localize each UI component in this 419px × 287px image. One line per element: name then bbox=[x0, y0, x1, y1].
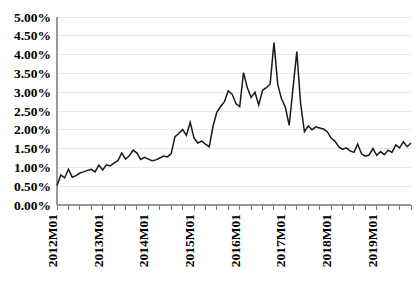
y-tick-label: 3.00% bbox=[14, 85, 51, 100]
y-axis-tick-labels: 0.00%0.50%1.00%1.50%2.00%2.50%3.00%3.50%… bbox=[14, 10, 51, 213]
chart-container: 0.00%0.50%1.00%1.50%2.00%2.50%3.00%3.50%… bbox=[0, 0, 419, 287]
y-tick-label: 2.00% bbox=[14, 122, 51, 137]
y-tick-label: 5.00% bbox=[14, 10, 51, 25]
x-tick-label: 2014M01 bbox=[136, 214, 151, 267]
y-tick-label: 1.50% bbox=[14, 141, 51, 156]
y-tick-label: 0.50% bbox=[14, 179, 51, 194]
y-tick-label: 4.50% bbox=[14, 28, 51, 43]
line-chart: 0.00%0.50%1.00%1.50%2.00%2.50%3.00%3.50%… bbox=[0, 0, 419, 287]
x-axis bbox=[57, 205, 411, 210]
series-line-rate bbox=[57, 43, 411, 186]
x-tick-label: 2016M01 bbox=[228, 214, 243, 267]
x-tick-label: 2017M01 bbox=[273, 214, 288, 267]
x-tick-label: 2019M01 bbox=[365, 214, 380, 267]
y-tick-label: 4.00% bbox=[14, 47, 51, 62]
x-tick-label: 2015M01 bbox=[182, 214, 197, 267]
gridlines bbox=[57, 17, 411, 205]
data-series bbox=[57, 43, 411, 186]
y-tick-label: 3.50% bbox=[14, 66, 51, 81]
y-tick-label: 1.00% bbox=[14, 160, 51, 175]
x-tick-label: 2013M01 bbox=[91, 214, 106, 267]
x-axis-tick-labels: 2012M012013M012014M012015M012016M012017M… bbox=[45, 214, 380, 267]
y-tick-label: 2.50% bbox=[14, 104, 51, 119]
x-tick-label: 2018M01 bbox=[319, 214, 334, 267]
x-tick-label: 2012M01 bbox=[45, 214, 60, 267]
y-tick-label: 0.00% bbox=[14, 198, 51, 213]
